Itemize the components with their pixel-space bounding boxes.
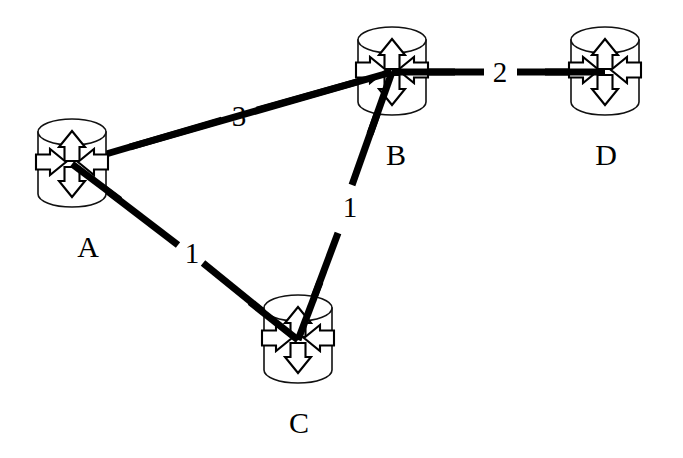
node-a[interactable]	[36, 119, 108, 207]
edge-weight-a-b: 3	[232, 100, 247, 132]
edge-overlay-layer	[72, 72, 605, 340]
edge-layer	[72, 72, 605, 340]
edge-a-b-overlay	[130, 72, 392, 147]
node-label-a: A	[77, 230, 99, 263]
network-diagram-svg: A B C D 3 2 1 1	[0, 0, 683, 458]
network-diagram-canvas: A B C D 3 2 1 1	[0, 0, 683, 458]
node-label-d: D	[595, 138, 617, 171]
node-label-b: B	[386, 138, 406, 171]
node-label-c: C	[289, 406, 309, 439]
edge-weight-c-b: 1	[343, 191, 358, 223]
label-layer: A B C D 3 2 1 1	[77, 56, 617, 439]
edge-weight-a-c: 1	[185, 237, 200, 269]
edge-weight-b-d: 2	[493, 56, 508, 88]
